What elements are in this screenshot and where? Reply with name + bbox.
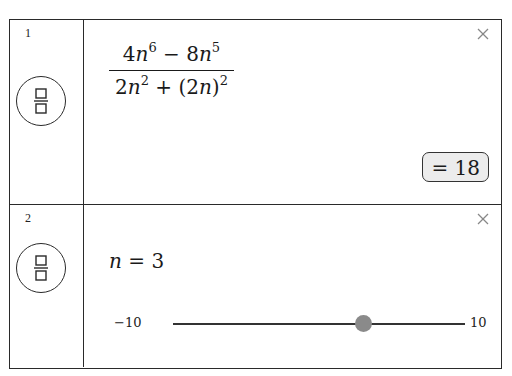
slider-max-label: 10: [470, 315, 487, 330]
slider-track[interactable]: [173, 323, 465, 325]
numerator: 4n6 − 8n5: [109, 42, 234, 70]
variable-assignment[interactable]: n = 3: [109, 249, 164, 273]
close-icon[interactable]: [475, 211, 491, 227]
expression-row-1[interactable]: 1 4n6 − 8n5 2n2 + (2n)2 = 18: [10, 20, 501, 205]
row-gutter: 1: [10, 20, 84, 204]
fraction-icon[interactable]: [16, 243, 66, 293]
row-number: 1: [25, 26, 31, 41]
row-number: 2: [25, 211, 31, 226]
close-icon[interactable]: [475, 26, 491, 42]
result-badge[interactable]: = 18: [422, 152, 489, 182]
slider-thumb[interactable]: [355, 315, 372, 332]
fraction-expression[interactable]: 4n6 − 8n5 2n2 + (2n)2: [109, 42, 234, 99]
expression-list: 1 4n6 − 8n5 2n2 + (2n)2 = 18 2: [9, 19, 502, 369]
denominator: 2n2 + (2n)2: [109, 70, 234, 99]
slider-min-label: −10: [114, 315, 141, 330]
fraction-icon[interactable]: [16, 76, 66, 126]
row-gutter: 2: [10, 205, 84, 367]
expression-row-2[interactable]: 2 n = 3 −10 10: [10, 205, 501, 367]
